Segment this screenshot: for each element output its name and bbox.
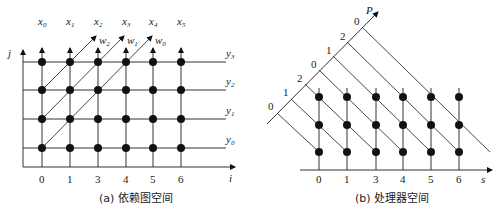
svg-text:y3: y3 — [225, 47, 235, 61]
i-axis-label: i — [229, 172, 232, 184]
diagram-canvas: x0 x1 x2 x3 x4 x5 w2 w1 w0 y3 y2 y1 y0 j… — [0, 0, 502, 210]
svg-text:y0: y0 — [225, 133, 235, 147]
svg-text:x1: x1 — [65, 15, 74, 29]
svg-text:w2: w2 — [99, 34, 110, 48]
svg-text:0: 0 — [354, 15, 360, 27]
s-axis-label: s — [481, 173, 485, 185]
slant-lines — [277, 27, 490, 152]
p-axis — [267, 12, 378, 124]
svg-text:1: 1 — [344, 173, 350, 185]
processor-space-panel: 0 1 2 0 1 2 0 P s 0 1 3 4 5 6 (b) 处理器空间 — [267, 4, 492, 205]
svg-text:1: 1 — [326, 44, 332, 56]
row-labels: y3 y2 y1 y0 — [225, 47, 235, 147]
processor-nodes — [315, 93, 463, 156]
svg-text:x0: x0 — [37, 15, 47, 29]
svg-text:5: 5 — [428, 173, 434, 185]
svg-text:1: 1 — [283, 86, 289, 98]
svg-text:x5: x5 — [176, 15, 186, 29]
svg-text:w1: w1 — [127, 34, 138, 48]
svg-text:4: 4 — [123, 173, 129, 185]
i-axis-ticks: 0 1 3 4 5 6 — [39, 173, 184, 185]
column-lines-b — [319, 88, 459, 170]
svg-text:2: 2 — [297, 72, 303, 84]
svg-text:0: 0 — [316, 173, 322, 185]
svg-text:0: 0 — [311, 58, 317, 70]
diagonal-labels: w2 w1 w0 — [99, 34, 166, 48]
svg-text:3: 3 — [373, 173, 379, 185]
svg-text:6: 6 — [178, 173, 184, 185]
svg-text:6: 6 — [456, 173, 462, 185]
caption-b: (b) 处理器空间 — [355, 191, 429, 205]
svg-text:y1: y1 — [225, 104, 234, 118]
svg-text:5: 5 — [150, 173, 156, 185]
svg-text:4: 4 — [400, 173, 406, 185]
svg-text:x3: x3 — [121, 15, 131, 29]
row-lines — [23, 62, 226, 148]
svg-text:x4: x4 — [148, 15, 158, 29]
svg-text:1: 1 — [67, 173, 73, 185]
svg-text:x2: x2 — [93, 15, 103, 29]
dependency-graph-panel: x0 x1 x2 x3 x4 x5 w2 w1 w0 y3 y2 y1 y0 j… — [6, 15, 235, 205]
p-axis-label: P — [365, 4, 373, 16]
svg-text:3: 3 — [95, 173, 101, 185]
column-lines — [42, 48, 181, 167]
svg-text:0: 0 — [268, 100, 274, 112]
top-labels: x0 x1 x2 x3 x4 x5 — [37, 15, 186, 29]
svg-text:w0: w0 — [155, 34, 166, 48]
svg-text:y2: y2 — [225, 75, 235, 89]
svg-text:0: 0 — [39, 173, 45, 185]
caption-a: (a) 依赖图空间 — [99, 191, 173, 205]
s-axis-ticks: 0 1 3 4 5 6 — [316, 173, 462, 185]
svg-text:2: 2 — [340, 30, 346, 42]
j-axis-label: j — [6, 47, 11, 59]
